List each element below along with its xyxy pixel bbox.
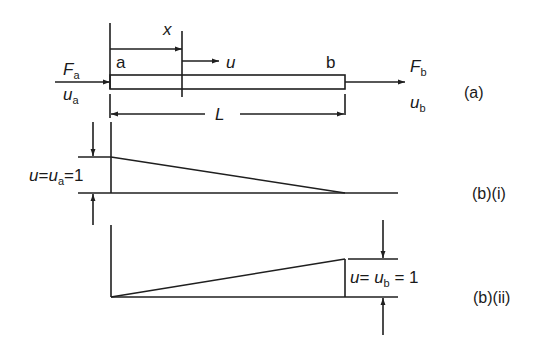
ub-equals-one-label: u= ub = 1 [350,268,419,289]
disp-b-label: ub [410,93,426,114]
length-label: L [215,105,224,124]
force-b-label: Fb [410,57,427,78]
node-a-label: a [116,53,126,72]
part-a-bar-element: a b x u L Fa ua Fb ub (a) [55,20,484,124]
shape-function-line [111,157,345,193]
disp-a-label: ua [63,85,79,106]
bar-element-shape-function-diagram: a b x u L Fa ua Fb ub (a) u=ua=1 (b)(i) [0,0,546,351]
u-label: u [226,53,236,72]
part-b-ii-shape-function-Nb: u= ub = 1 (b)(ii) [111,220,510,335]
part-b-i-shape-function-Na: u=ua=1 (b)(i) [29,122,506,225]
caption-b-ii: (b)(ii) [473,289,510,306]
ua-equals-one-label: u=ua=1 [29,166,83,187]
caption-a: (a) [464,84,484,101]
x-label: x [162,20,172,39]
caption-b-i: (b)(i) [472,185,506,202]
bar [110,75,345,89]
node-b-label: b [326,53,335,72]
force-a-label: Fa [63,60,80,81]
shape-function-line [111,259,345,297]
